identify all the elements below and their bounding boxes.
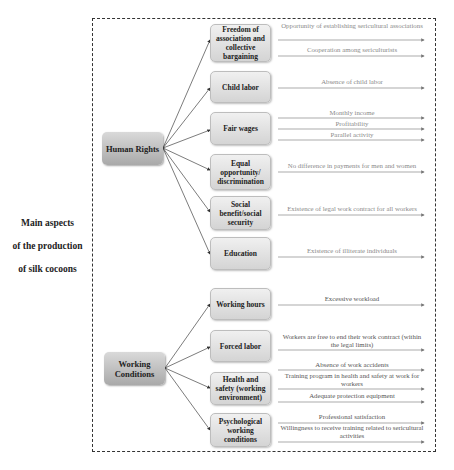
indicator: Adequate protection equipment (278, 392, 426, 400)
category-equal-opportunity: Equal opportunity/ discrimination (210, 154, 271, 190)
category-education: Education (210, 237, 271, 270)
indicator: Monthly income (278, 109, 426, 117)
category-fair-wages: Fair wages (210, 112, 271, 145)
category-label: Health and safety (working environment) (213, 375, 268, 402)
indicator: Excessive workload (278, 295, 426, 303)
indicator: Professional satisfaction (278, 413, 426, 421)
indicator: Parallel activity (278, 131, 426, 139)
indicator: Willingness to receive training related … (278, 424, 426, 440)
indicator: No difference in payments for men and wo… (278, 162, 426, 170)
category-label: Freedom of association and collective ba… (213, 25, 268, 61)
category-label: Child labor (222, 83, 259, 92)
group-label: Human Rights (106, 144, 159, 154)
category-child-labor: Child labor (210, 71, 271, 103)
indicator: Existence of illiterate individuals (278, 247, 426, 255)
category-label: Fair wages (223, 124, 258, 133)
category-label: Psychological working conditions (213, 417, 268, 444)
category-label: Education (224, 249, 257, 258)
group-label: Working Conditions (112, 359, 157, 379)
category-psychological-conditions: Psychological working conditions (210, 413, 271, 447)
indicator: Profitability (278, 120, 426, 128)
category-label: Social benefit/social security (213, 200, 268, 227)
category-working-hours: Working hours (210, 288, 271, 320)
group-human-rights: Human Rights (102, 132, 163, 165)
indicator: Existence of legal work contract for all… (278, 205, 426, 213)
category-forced-labor: Forced labor (210, 330, 271, 362)
indicator: Workers are free to end their work contr… (278, 333, 426, 349)
indicator: Absence of child labor (278, 78, 426, 86)
category-social-benefit: Social benefit/social security (210, 196, 271, 230)
category-label: Working hours (216, 300, 265, 309)
indicator: Absence of work accidents (278, 361, 426, 369)
category-label: Equal opportunity/ discrimination (213, 159, 268, 186)
indicator: Training program in health and safety at… (278, 372, 426, 388)
category-freedom-of-association: Freedom of association and collective ba… (210, 24, 271, 62)
category-label: Forced labor (220, 342, 261, 351)
group-working-conditions: Working Conditions (104, 352, 165, 385)
indicator: Cooperation among sericulturists (278, 46, 426, 54)
category-health-and-safety: Health and safety (working environment) (210, 372, 271, 405)
indicator: Opportunity of establishing sericultural… (278, 22, 426, 30)
